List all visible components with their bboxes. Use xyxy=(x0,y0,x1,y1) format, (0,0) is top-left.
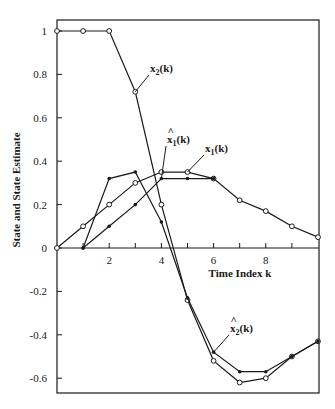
series-layer xyxy=(55,29,321,385)
x-tick-label: 2 xyxy=(106,254,112,266)
data-point xyxy=(55,29,60,34)
y-tick-label: 0.6 xyxy=(33,112,47,124)
series-label: x1(k) xyxy=(205,142,228,157)
y-tick-label: -0.4 xyxy=(30,329,48,341)
series-line xyxy=(83,172,318,372)
annotation-x2k: x2(k)^ xyxy=(214,314,254,352)
data-point xyxy=(160,220,164,224)
x-axis-title: Time Index k xyxy=(209,267,273,279)
x-tick-label: 8 xyxy=(263,254,269,266)
data-point xyxy=(264,370,268,374)
data-point xyxy=(238,370,242,374)
data-point xyxy=(55,246,60,251)
line-chart: 10.80.60.40.20-0.2-0.4-0.6 2468 Time Ind… xyxy=(0,0,335,409)
series-line xyxy=(83,179,214,248)
data-point xyxy=(186,177,190,181)
data-point xyxy=(211,358,216,363)
leader-line xyxy=(214,335,229,352)
series-x1k xyxy=(81,177,215,250)
y-tick-label: 0.2 xyxy=(33,199,47,211)
data-point xyxy=(316,235,321,240)
hat-accent: ^ xyxy=(168,125,174,137)
data-point xyxy=(107,225,111,229)
x-axis-ticks: 2468 xyxy=(83,243,292,266)
data-point xyxy=(159,202,164,207)
data-point xyxy=(133,181,138,186)
data-point xyxy=(290,224,295,229)
y-tick-label: 0.8 xyxy=(33,68,47,80)
data-point xyxy=(237,198,242,203)
data-point xyxy=(81,224,86,229)
hat-accent: ^ xyxy=(231,314,237,326)
data-point xyxy=(81,29,86,34)
data-point xyxy=(159,170,164,175)
annotation-x1k: x1(k) xyxy=(188,142,229,172)
series-x2k xyxy=(81,170,320,373)
data-point xyxy=(316,340,320,344)
plot-frame xyxy=(57,20,319,393)
data-point xyxy=(134,203,138,207)
data-point xyxy=(107,29,112,34)
leader-line xyxy=(135,75,149,92)
data-point xyxy=(212,177,216,181)
series-line xyxy=(57,31,318,383)
y-tick-label: -0.6 xyxy=(30,372,48,384)
y-tick-label: 1 xyxy=(42,25,48,37)
y-axis-title: State and State Estimate xyxy=(10,132,22,247)
y-tick-label: 0 xyxy=(42,242,48,254)
x-tick-label: 6 xyxy=(211,254,217,266)
series-label: x2(k) xyxy=(150,62,173,77)
data-point xyxy=(107,177,111,181)
y-tick-label: -0.2 xyxy=(30,285,47,297)
data-point xyxy=(134,170,138,174)
data-point xyxy=(263,376,268,381)
data-point xyxy=(186,296,190,300)
data-point xyxy=(290,355,294,359)
y-tick-label: 0.4 xyxy=(33,155,47,167)
series-x2k xyxy=(55,29,321,385)
data-point xyxy=(263,209,268,214)
data-point xyxy=(107,202,112,207)
x-tick-label: 4 xyxy=(159,254,165,266)
annotation-x2k: x2(k) xyxy=(135,62,173,92)
data-point xyxy=(237,380,242,385)
data-point xyxy=(81,246,85,250)
leader-line xyxy=(188,155,205,172)
